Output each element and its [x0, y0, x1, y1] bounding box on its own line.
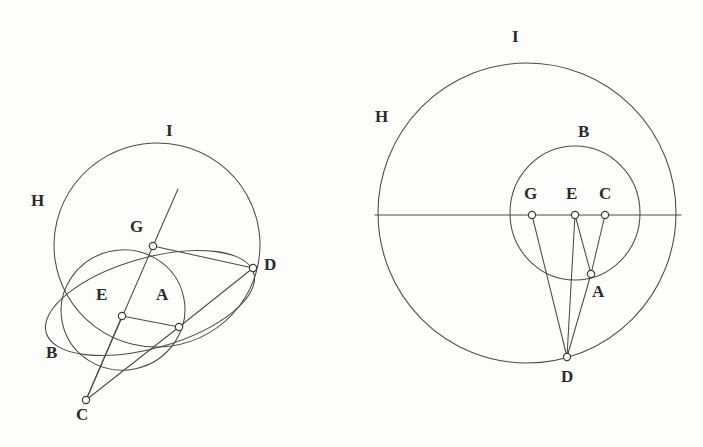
left-panel-label-I: I	[166, 122, 173, 139]
right-panel-label-H: H	[375, 108, 388, 125]
left-panel-point-D	[249, 264, 256, 271]
left-panel-point-G	[149, 242, 156, 249]
left-panel-segment-A-C	[86, 327, 179, 400]
left-panel-label-D: D	[264, 256, 276, 273]
left-panel-label-A: A	[156, 286, 168, 303]
right-panel-label-B: B	[578, 123, 589, 140]
left-panel-segment-A-D	[179, 268, 253, 327]
geometry-figure: IHGDEABCIHBGECAD	[0, 0, 703, 447]
left-panel-label-G: G	[130, 218, 143, 235]
right-panel-label-G: G	[524, 185, 537, 202]
right-panel-segment-C-A	[591, 215, 605, 274]
left-panel-label-C: C	[76, 406, 88, 423]
right-panel-point-D	[563, 353, 570, 360]
right-panel-point-G	[528, 211, 535, 218]
right-panel-label-C: C	[599, 185, 611, 202]
left-panel-segment-G-axis-up	[153, 189, 178, 246]
right-panel-label-E: E	[566, 185, 577, 202]
left-panel-point-A	[175, 323, 182, 330]
geometry-canvas	[0, 0, 703, 447]
right-panel-segment-E-A	[575, 215, 591, 274]
right-panel-point-A	[587, 270, 594, 277]
right-panel-segment-G-D	[532, 215, 567, 357]
left-panel-label-B: B	[46, 344, 57, 361]
left-panel-label-E: E	[96, 286, 107, 303]
left-panel-point-C	[82, 396, 89, 403]
left-panel-inner-circle-B	[50, 238, 196, 381]
right-panel-point-C	[601, 211, 608, 218]
right-panel-label-D: D	[561, 368, 573, 385]
left-panel-point-E	[118, 312, 125, 319]
left-panel-label-H: H	[31, 192, 44, 209]
right-panel-label-I: I	[512, 28, 519, 45]
point-markers-group	[82, 211, 608, 403]
right-panel-segment-E-D	[567, 215, 575, 357]
left-panel-segment-E-A	[122, 316, 179, 327]
left-panel-segment-E-C	[86, 316, 122, 400]
right-panel-label-A: A	[592, 283, 604, 300]
right-panel-point-E	[571, 211, 578, 218]
right-panel-outer-circle-HI	[378, 63, 676, 363]
